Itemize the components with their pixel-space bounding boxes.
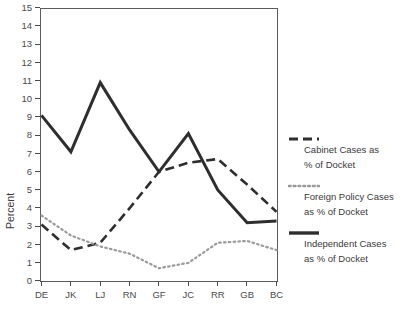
legend-label: Foreign Policy Cases — [286, 189, 402, 204]
y-axis-tick — [35, 7, 40, 8]
y-axis-tick — [35, 171, 40, 172]
x-axis-tick — [100, 281, 101, 286]
y-axis-tick — [35, 80, 40, 81]
y-axis-title: Percent — [4, 176, 16, 246]
x-axis-tick — [246, 281, 247, 286]
y-axis-tick — [35, 62, 40, 63]
dashed-line-swatch — [288, 130, 402, 140]
y-axis-tick — [35, 207, 40, 208]
y-axis-tick — [35, 280, 40, 281]
y-axis-tick — [35, 153, 40, 154]
legend-label: Independent Cases — [286, 236, 402, 251]
x-axis-tick-label: BC — [260, 289, 294, 300]
y-axis-tick — [35, 244, 40, 245]
y-axis-tick — [35, 116, 40, 117]
legend-label: % of Docket — [286, 157, 402, 172]
legend-label: Cabinet Cases as — [286, 142, 402, 157]
plot-frame-top — [40, 8, 277, 9]
x-axis-tick — [70, 281, 71, 286]
chart-container: 0123456789101112131415 Percent DEJKLJRNG… — [0, 0, 402, 316]
y-axis-tick-label: 7 — [6, 149, 32, 159]
legend-entry: Foreign Policy Casesas % of Docket — [286, 177, 402, 219]
y-axis-tick-label: 0 — [6, 276, 32, 286]
y-axis-tick-label: 6 — [6, 167, 32, 177]
x-axis-tick — [276, 281, 277, 286]
x-axis-tick — [129, 281, 130, 286]
plot-area — [40, 8, 278, 282]
plot-frame-right — [277, 8, 278, 281]
solid-line-swatch — [288, 224, 402, 234]
y-axis-tick-label: 10 — [6, 94, 32, 104]
y-axis-tick — [35, 98, 40, 99]
y-axis-tick — [35, 226, 40, 227]
x-axis-tick — [188, 281, 189, 286]
y-axis-tick-label: 14 — [6, 21, 32, 31]
legend-entry: Cabinet Cases as% of Docket — [286, 130, 402, 172]
y-axis-tick-label: 12 — [6, 58, 32, 68]
y-axis-tick — [35, 44, 40, 45]
x-axis-tick — [158, 281, 159, 286]
y-axis-tick-label: 9 — [6, 112, 32, 122]
y-axis-tick — [35, 25, 40, 26]
y-axis-tick — [35, 189, 40, 190]
y-axis-tick-label: 1 — [6, 258, 32, 268]
chart-legend: Cabinet Cases as% of DocketForeign Polic… — [286, 130, 402, 271]
legend-label: as % of Docket — [286, 204, 402, 219]
y-axis-tick — [35, 262, 40, 263]
legend-label: as % of Docket — [286, 251, 402, 266]
dotted-line-swatch — [288, 177, 402, 187]
y-axis-tick-label: 11 — [6, 76, 32, 86]
y-axis-tick-label: 15 — [6, 3, 32, 13]
y-axis-tick-label: 8 — [6, 130, 32, 140]
x-axis-tick — [217, 281, 218, 286]
legend-entry: Independent Casesas % of Docket — [286, 224, 402, 266]
x-axis-tick — [41, 281, 42, 286]
y-axis-tick — [35, 135, 40, 136]
y-axis-tick-label: 13 — [6, 39, 32, 49]
